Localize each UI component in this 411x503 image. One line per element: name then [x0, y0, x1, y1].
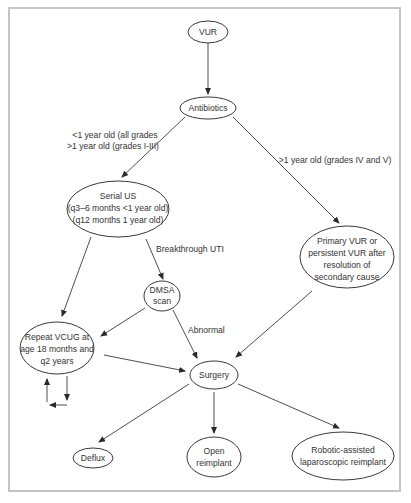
svg-text:>1 year old (grades I-III): >1 year old (grades I-III): [67, 141, 159, 151]
node-repeat-vcug: Repeat VCUG at age 18 months and q2 year…: [20, 322, 94, 374]
edge-primary-vur-surgery: [236, 291, 312, 357]
edge-surgery-robotic: [238, 384, 339, 428]
node-antibiotics: Antibiotics: [180, 97, 236, 119]
svg-text:secondary cause: secondary cause: [315, 272, 380, 282]
svg-text:Deflux: Deflux: [81, 453, 106, 463]
svg-text:reimplant: reimplant: [196, 458, 232, 468]
node-open-reimplant: Open reimplant: [187, 437, 241, 477]
edge-label-young-grades: <1 year old (all grades >1 year old (gra…: [67, 130, 159, 151]
edge-repeat-vcug-loop: [47, 376, 67, 405]
svg-text:resolution of: resolution of: [324, 260, 371, 270]
edge-serial-us-repeat-vcug: [62, 237, 91, 316]
edge-repeat-vcug-surgery: [104, 355, 185, 371]
svg-text:Serial US: Serial US: [100, 191, 137, 201]
edge-dmsa-repeat-vcug: [101, 308, 145, 336]
node-dmsa-scan: DMSA scan: [144, 281, 180, 311]
node-serial-us: Serial US (q3–6 months <1 year old) (q12…: [67, 181, 169, 237]
svg-text:(q12 months 1 year old): (q12 months 1 year old): [73, 215, 164, 225]
vur-management-flowchart: <1 year old (all grades >1 year old (gra…: [0, 0, 411, 503]
edge-label-older-grades: >1 year old (grades IV and V): [279, 155, 392, 165]
svg-text:Antibiotics: Antibiotics: [188, 103, 227, 113]
svg-text:DMSA: DMSA: [150, 285, 175, 295]
edge-antibiotics-primary-vur: [233, 117, 339, 223]
node-primary-vur: Primary VUR or persistent VUR after reso…: [300, 226, 394, 288]
svg-text:>1 year old (grades IV and V): >1 year old (grades IV and V): [279, 155, 392, 165]
node-surgery: Surgery: [190, 361, 238, 389]
svg-text:<1 year old (all grades: <1 year old (all grades: [72, 130, 157, 140]
svg-text:Surgery: Surgery: [199, 370, 230, 380]
node-vur: VUR: [188, 21, 228, 43]
svg-text:persistent VUR after: persistent VUR after: [308, 248, 386, 258]
node-robotic-reimplant: Robotic-assisted laparoscopic reimplant: [292, 432, 394, 480]
svg-text:Breakthrough UTI: Breakthrough UTI: [156, 244, 224, 254]
edge-label-breakthrough-uti: Breakthrough UTI: [156, 244, 224, 254]
svg-text:(q3–6 months <1 year old): (q3–6 months <1 year old): [68, 203, 169, 213]
svg-text:Abnormal: Abnormal: [188, 325, 225, 335]
edge-surgery-deflux: [99, 384, 189, 442]
node-deflux: Deflux: [73, 448, 113, 468]
edge-label-abnormal: Abnormal: [188, 325, 225, 335]
svg-text:scan: scan: [153, 296, 171, 306]
svg-text:q2 years: q2 years: [41, 356, 74, 366]
svg-text:Primary VUR or: Primary VUR or: [317, 236, 377, 246]
svg-text:Open: Open: [203, 446, 224, 456]
svg-text:VUR: VUR: [199, 27, 217, 37]
svg-text:Robotic-assisted: Robotic-assisted: [311, 445, 375, 455]
svg-text:laparoscopic reimplant: laparoscopic reimplant: [300, 457, 387, 467]
svg-text:Repeat VCUG at: Repeat VCUG at: [25, 332, 90, 342]
svg-text:age 18 months and: age 18 months and: [20, 344, 94, 354]
